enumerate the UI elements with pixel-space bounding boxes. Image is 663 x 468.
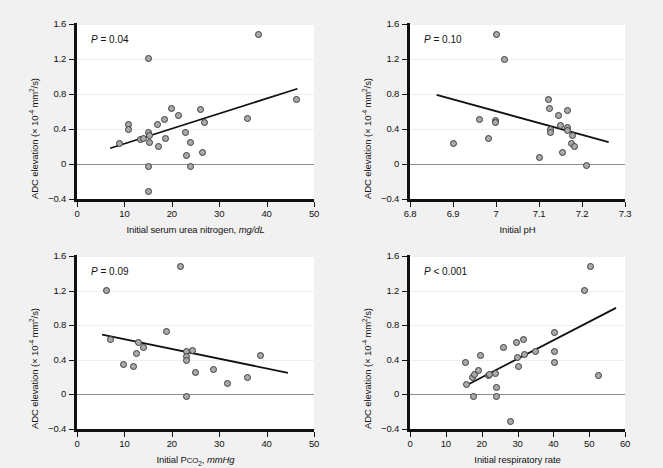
- panel-d-x-tick-label: 0: [390, 438, 430, 449]
- panel-d-data-point: [551, 359, 558, 366]
- panel-d-plot-area: [410, 256, 625, 429]
- panel-d-y-tick: [402, 325, 407, 326]
- panel-d-x-tick-label: 30: [498, 438, 538, 449]
- panel-d-x-tick: [625, 432, 626, 437]
- panel-d-y-tick: [402, 291, 407, 292]
- panel-d-x-tick: [410, 432, 411, 437]
- panel-d: −0.400.40.81.21.60102030405060ADC elevat…: [0, 0, 663, 468]
- panel-d-y-tick-label: 1.6: [366, 250, 399, 261]
- panel-d-x-tick: [553, 432, 554, 437]
- panel-d-y-axis-label: ADC elevation (× 10-4 mm2/s): [361, 308, 373, 429]
- panel-d-x-tick: [482, 432, 483, 437]
- panel-d-data-point: [551, 348, 558, 355]
- panel-d-y-tick: [402, 394, 407, 395]
- figure-container: −0.400.40.81.21.601020304050ADC elevatio…: [0, 0, 663, 468]
- panel-d-data-point: [493, 384, 500, 391]
- panel-d-y-tick: [402, 256, 407, 257]
- panel-d-y-tick: [402, 429, 407, 430]
- panel-d-data-point: [532, 348, 539, 355]
- panel-d-x-tick: [446, 432, 447, 437]
- panel-d-data-point: [515, 363, 522, 370]
- panel-d-data-point: [492, 370, 499, 377]
- panel-d-x-tick-label: 10: [426, 438, 466, 449]
- panel-d-x-tick-label: 40: [533, 438, 573, 449]
- panel-d-data-point: [507, 418, 514, 425]
- panel-d-data-point: [551, 329, 558, 336]
- panel-d-data-point: [463, 381, 470, 388]
- panel-d-p-value-annotation: P < 0.001: [424, 266, 467, 277]
- panel-d-x-axis-label: Initial respiratory rate: [410, 454, 625, 465]
- panel-d-data-point: [475, 367, 482, 374]
- panel-d-y-tick-label: 1.2: [366, 285, 399, 296]
- panel-d-x-tick-label: 60: [605, 438, 645, 449]
- panel-d-x-tick: [518, 432, 519, 437]
- panel-d-data-point: [500, 344, 507, 351]
- panel-d-y-axis-spine: [407, 255, 410, 432]
- panel-d-y-tick: [402, 360, 407, 361]
- panel-d-data-point: [595, 372, 602, 379]
- panel-d-data-point: [514, 354, 521, 361]
- panel-d-x-tick: [589, 432, 590, 437]
- panel-d-x-tick-label: 50: [569, 438, 609, 449]
- panel-d-x-tick-label: 20: [462, 438, 502, 449]
- panel-d-x-axis-spine: [407, 429, 625, 432]
